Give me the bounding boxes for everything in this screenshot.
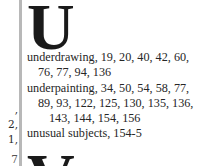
index-entry-continuation: 143, 144, 154, 156 xyxy=(27,111,199,126)
left-fragment: 2, xyxy=(8,117,18,132)
section-heading-v: V xyxy=(27,144,75,166)
index-entry-underdrawing: underdrawing, 19, 20, 40, 42, 60, xyxy=(27,50,199,65)
left-fragment: , xyxy=(15,102,18,117)
index-entries: underdrawing, 19, 20, 40, 42, 60, 76, 77… xyxy=(27,50,199,142)
left-fragment: 1, xyxy=(8,132,18,147)
index-entry-continuation: 89, 93, 122, 125, 130, 135, 136, xyxy=(27,96,199,111)
previous-column: , 2, 1, 7 xyxy=(0,0,19,166)
left-fragment: 7 xyxy=(11,152,18,166)
index-entry-underpainting: underpainting, 34, 50, 54, 58, 77, xyxy=(27,81,199,96)
index-entry-continuation: 76, 77, 94, 136 xyxy=(27,65,199,80)
column-divider xyxy=(19,0,22,166)
index-column: U underdrawing, 19, 20, 40, 42, 60, 76, … xyxy=(27,0,199,166)
